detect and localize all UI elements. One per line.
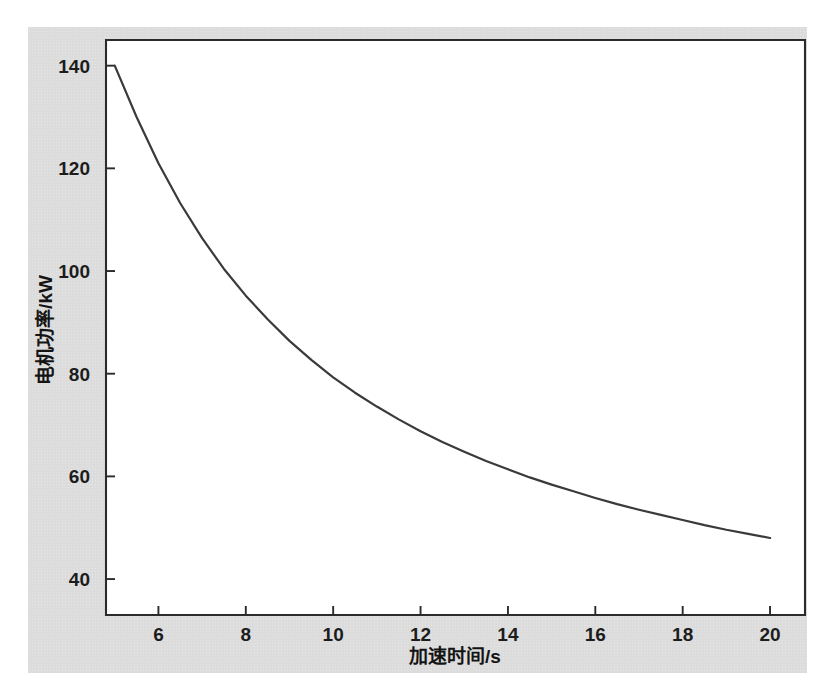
y-tick-label: 100 xyxy=(58,261,90,282)
page-canvas: 406080100120140 68101214161820 加速时间/s 电机… xyxy=(0,0,834,700)
y-axis-title: 电机功率/kW xyxy=(34,275,56,385)
plot-area-background xyxy=(106,40,805,615)
x-tick-label: 8 xyxy=(241,624,252,645)
x-tick-label: 10 xyxy=(323,624,344,645)
y-tick-label: 60 xyxy=(69,466,90,487)
y-axis-tick-labels: 406080100120140 xyxy=(58,56,90,590)
x-axis-title: 加速时间/s xyxy=(408,645,501,667)
chart-plot: 406080100120140 68101214161820 加速时间/s 电机… xyxy=(0,0,834,700)
x-tick-label: 12 xyxy=(410,624,431,645)
x-tick-label: 16 xyxy=(585,624,606,645)
x-tick-label: 20 xyxy=(759,624,780,645)
x-tick-label: 18 xyxy=(672,624,693,645)
y-tick-label: 140 xyxy=(58,56,90,77)
y-tick-label: 40 xyxy=(69,569,90,590)
y-tick-label: 120 xyxy=(58,158,90,179)
x-axis-tick-labels: 68101214161820 xyxy=(153,624,780,645)
x-tick-label: 6 xyxy=(153,624,164,645)
y-tick-label: 80 xyxy=(69,364,90,385)
x-tick-label: 14 xyxy=(497,624,519,645)
